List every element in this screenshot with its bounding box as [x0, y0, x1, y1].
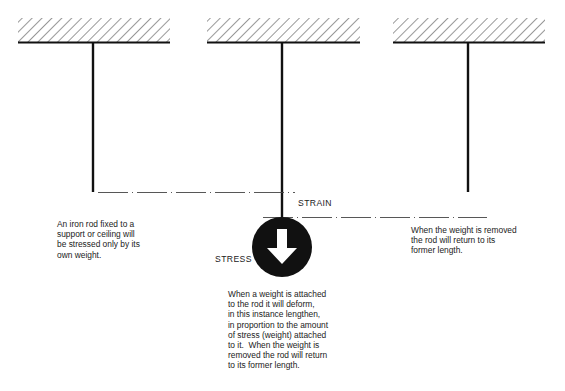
strain-label: STRAIN — [298, 198, 332, 208]
weight-down-arrow-icon — [252, 217, 312, 277]
stress-label: STRESS — [215, 254, 252, 264]
ceiling-left — [18, 18, 170, 43]
ceiling-right — [393, 18, 545, 43]
caption-unloaded: An iron rod fixed to a support or ceilin… — [57, 219, 140, 260]
caption-unloaded-after: When the weight is removed the rod will … — [411, 225, 517, 256]
ceiling-middle — [207, 18, 360, 43]
caption-loaded: When a weight is attached to the rod it … — [228, 289, 328, 371]
